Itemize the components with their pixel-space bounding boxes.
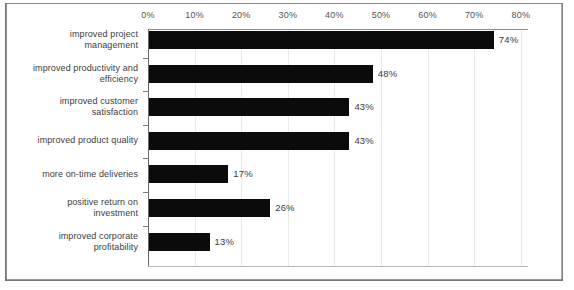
bar-value-label: 43%	[354, 101, 374, 112]
bar-category-label: improved projectmanagement	[4, 29, 138, 51]
bar	[149, 98, 349, 116]
x-tick-label: 40%	[325, 10, 344, 20]
x-tick-label: 30%	[278, 10, 297, 20]
bar-category-label-line: improved corporate	[4, 231, 138, 242]
axis-tick	[143, 158, 149, 159]
bar-category-label: improved customersatisfaction	[4, 96, 138, 118]
bar-value-label: 26%	[275, 202, 295, 213]
bar-category-label-line: improved customer	[4, 96, 138, 107]
bar-category-label: improved product quality	[4, 135, 138, 146]
bar-category-label-line: satisfaction	[4, 107, 138, 118]
x-axis-tick-labels: 0%10%20%30%40%50%60%70%80%	[0, 10, 574, 24]
x-tick-label: 70%	[465, 10, 484, 20]
axis-tick	[143, 125, 149, 126]
plot-bottom-border	[148, 266, 528, 267]
bar	[149, 165, 228, 183]
gridline	[521, 30, 522, 266]
x-tick-label: 20%	[232, 10, 251, 20]
bar	[149, 31, 494, 49]
bar-value-label: 17%	[233, 168, 253, 179]
bar-value-label: 13%	[215, 236, 235, 247]
axis-tick	[143, 58, 149, 59]
bar	[149, 233, 210, 251]
bar-category-label-line: management	[4, 40, 138, 51]
bar-category-label-line: profitability	[4, 242, 138, 253]
bar-category-label-line: investment	[4, 208, 138, 219]
plot-top-border	[148, 29, 528, 30]
x-tick-label: 50%	[372, 10, 391, 20]
bar-value-label: 74%	[499, 34, 519, 45]
bar-value-label: 43%	[354, 135, 374, 146]
gridline	[474, 30, 475, 266]
bar-category-label-line: improved product quality	[4, 135, 138, 146]
bar-category-label: positive return oninvestment	[4, 197, 138, 219]
bar-category-label: improved productivity andefficiency	[4, 63, 138, 85]
bar-category-label-line: improved project	[4, 29, 138, 40]
bar-category-label-line: improved productivity and	[4, 63, 138, 74]
axis-tick	[143, 226, 149, 227]
screenshot-root: 0%10%20%30%40%50%60%70%80% improved proj…	[0, 0, 574, 290]
bar-category-label-line: efficiency	[4, 74, 138, 85]
bar-category-label-line: positive return on	[4, 197, 138, 208]
axis-tick	[143, 192, 149, 193]
bar-category-label: more on-time deliveries	[4, 169, 138, 180]
x-tick-label: 10%	[185, 10, 204, 20]
x-tick-label: 60%	[418, 10, 437, 20]
bar-value-label: 48%	[378, 68, 398, 79]
bar-category-label-line: more on-time deliveries	[4, 169, 138, 180]
bar	[149, 65, 373, 83]
gridline	[381, 30, 382, 266]
x-tick-label: 0%	[141, 10, 154, 20]
axis-tick	[143, 91, 149, 92]
bar-category-label: improved corporateprofitability	[4, 231, 138, 253]
horizontal-bar-chart: 0%10%20%30%40%50%60%70%80% improved proj…	[0, 0, 574, 290]
gridline	[428, 30, 429, 266]
bar	[149, 199, 270, 217]
bar	[149, 132, 349, 150]
x-tick-label: 80%	[511, 10, 530, 20]
